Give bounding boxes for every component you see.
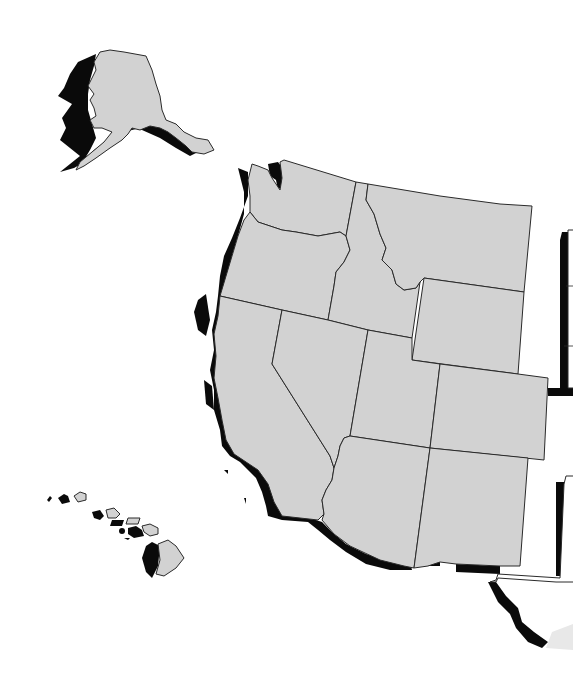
hawaii-inset [47, 492, 184, 578]
island-molokai[interactable] [126, 518, 140, 524]
western-us-map [0, 0, 573, 684]
island-oahu[interactable] [106, 508, 120, 518]
alaska-inset [58, 50, 214, 172]
island-niihau-kauai[interactable] [74, 492, 86, 502]
neighbor-dakotas-edge [568, 230, 573, 388]
state-new-mexico[interactable] [414, 448, 528, 568]
state-wyoming[interactable] [412, 278, 524, 374]
state-arizona[interactable] [322, 436, 430, 568]
island-hawaii[interactable] [156, 540, 184, 576]
island-maui[interactable] [142, 524, 158, 536]
state-alaska[interactable] [76, 50, 214, 170]
state-colorado[interactable] [430, 364, 548, 460]
mainland-states [214, 160, 548, 568]
